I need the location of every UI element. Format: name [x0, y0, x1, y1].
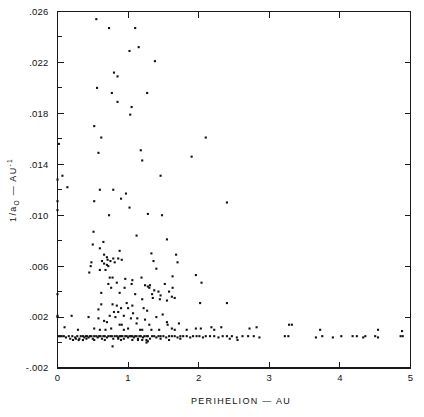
scatter-point — [157, 291, 159, 293]
scatter-point — [153, 335, 155, 337]
scatter-point — [80, 335, 82, 337]
scatter-point — [76, 335, 78, 337]
y-axis-tick-label: .022 — [29, 57, 48, 68]
scatter-point — [340, 335, 342, 337]
scatter-point — [140, 277, 142, 279]
scatter-point — [136, 335, 138, 337]
scatter-point — [287, 335, 289, 337]
scatter-point — [111, 92, 113, 94]
y-axis-tick-label: .014 — [29, 159, 48, 170]
scatter-point — [315, 336, 317, 338]
scatter-point — [159, 298, 161, 300]
figure-background — [0, 0, 424, 417]
scatter-point — [231, 335, 233, 337]
scatter-point — [172, 275, 174, 277]
scatter-point — [71, 315, 73, 317]
scatter-point — [158, 329, 160, 331]
scatter-point — [162, 335, 164, 337]
y-axis-tick-label: .018 — [29, 108, 48, 119]
scatter-point — [162, 313, 164, 315]
scatter-point — [117, 311, 119, 313]
scatter-point — [140, 149, 142, 151]
scatter-point — [166, 321, 168, 323]
scatter-point — [107, 283, 109, 285]
scatter-point — [400, 335, 402, 337]
scatter-point — [174, 329, 176, 331]
x-axis-tick-label: 0 — [55, 372, 60, 383]
scatter-point — [99, 247, 101, 249]
scatter-point — [152, 297, 154, 299]
scatter-point — [96, 87, 98, 89]
scatter-point — [93, 335, 95, 337]
scatter-point — [130, 317, 132, 319]
scatter-point — [100, 335, 102, 337]
scatter-point — [222, 335, 224, 337]
scatter-point — [147, 340, 149, 342]
scatter-point — [61, 335, 63, 337]
scatter-point — [195, 274, 197, 276]
scatter-point — [364, 335, 366, 337]
scatter-point — [288, 324, 290, 326]
scatter-point — [161, 214, 163, 216]
scatter-point — [97, 308, 99, 310]
scatter-point — [151, 293, 153, 295]
scatter-point — [56, 293, 58, 295]
scatter-point — [112, 257, 114, 259]
scatter-point — [155, 268, 157, 270]
scatter-point — [85, 338, 87, 340]
scatter-point — [112, 338, 114, 340]
scatter-point — [189, 336, 191, 338]
scatter-point — [82, 339, 84, 341]
scatter-point — [88, 271, 90, 273]
scatter-point — [229, 338, 231, 340]
scatter-point — [182, 335, 184, 337]
scatter-point — [111, 335, 113, 337]
scatter-point — [136, 317, 138, 319]
scatter-point — [66, 186, 68, 188]
scatter-point — [128, 50, 130, 52]
scatter-point — [119, 250, 121, 252]
scatter-point — [78, 339, 80, 341]
scatter-point — [205, 335, 207, 337]
scatter-point — [101, 338, 103, 340]
scatter-point — [152, 260, 154, 262]
scatter-point — [116, 305, 118, 307]
scatter-point — [121, 259, 123, 261]
scatter-point — [401, 330, 403, 332]
scatter-point — [93, 339, 95, 341]
scatter-point — [157, 335, 159, 337]
scatter-point — [155, 336, 157, 338]
scatter-point — [139, 329, 141, 331]
scatter-point — [127, 307, 129, 309]
scatter-point — [165, 336, 167, 338]
scatter-point — [209, 335, 211, 337]
scatter-point — [88, 316, 90, 318]
scatter-point — [258, 336, 260, 338]
scatter-point — [192, 335, 194, 337]
y-axis-tick-label: .002 — [29, 311, 48, 322]
scatter-point — [217, 336, 219, 338]
scatter-point — [153, 289, 155, 291]
scatter-point — [131, 106, 133, 108]
scatter-point — [175, 254, 177, 256]
scatter-point — [148, 324, 150, 326]
scatter-point — [171, 296, 173, 298]
scatter-point — [144, 284, 146, 286]
scatter-point — [176, 336, 178, 338]
scatter-point — [236, 339, 238, 341]
svg-text:1/aO — AU-1: 1/aO — AU-1 — [6, 158, 19, 222]
scatter-point — [226, 201, 228, 203]
scatter-point — [131, 279, 133, 281]
scatter-point — [174, 335, 176, 337]
scatter-point — [95, 18, 97, 20]
scatter-point — [200, 327, 202, 329]
y-axis-title-mid: — AU — [8, 167, 18, 200]
scatter-point — [72, 339, 74, 341]
scatter-point — [116, 282, 118, 284]
scatter-point — [377, 336, 379, 338]
scatter-point — [146, 310, 148, 312]
scatter-point — [104, 329, 106, 331]
y-axis-title-superscript: -1 — [6, 158, 13, 166]
scatter-point — [226, 302, 228, 304]
scatter-point — [146, 92, 148, 94]
